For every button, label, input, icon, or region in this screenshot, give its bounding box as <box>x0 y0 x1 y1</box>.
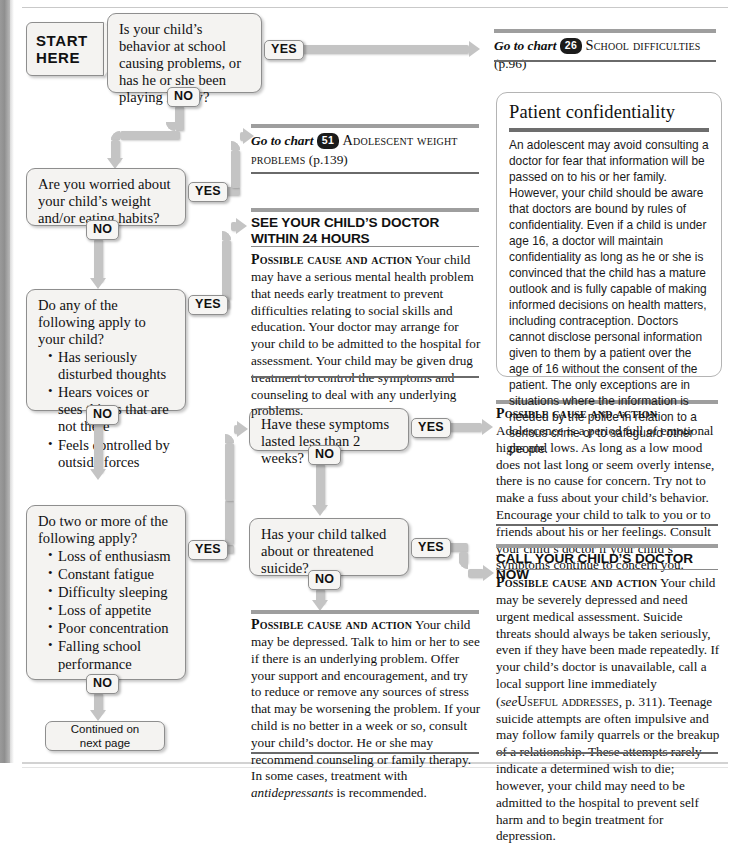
connector-q4-yes-corner2 <box>225 434 234 443</box>
advice-text-part2: , p. 311). Teenage suicide attempts are … <box>496 694 719 844</box>
question-box-school-behavior[interactable]: Is your child’s behavior at school causi… <box>107 13 262 93</box>
connector-q1-no-down <box>175 106 184 131</box>
list-item: Loss of enthusiasm <box>49 548 175 565</box>
connector-q6-yes-right2 <box>468 569 484 578</box>
advice-text-part1: Your child may be depressed. Talk to him… <box>251 617 480 783</box>
connector-q5-no <box>316 464 325 509</box>
start-here-line2: HERE <box>36 49 103 66</box>
arrow-q3-yes <box>236 218 247 234</box>
advice-rule-top-depressed <box>251 610 479 614</box>
panel-body-text: An adolescent may avoid consulting a doc… <box>509 137 711 457</box>
connector-q4-yes-up <box>225 500 234 545</box>
question-box-disturbed-thoughts[interactable]: Do any of the following apply to your ch… <box>26 289 186 411</box>
connector-q2-yes-up <box>231 150 240 188</box>
advice-see-word: see <box>500 694 517 709</box>
arrow-q6-yes <box>483 565 494 581</box>
connector-q1-yes <box>300 45 469 54</box>
go-to-chart-prefix: Go to chart <box>494 38 557 53</box>
no-label-q1[interactable]: NO <box>167 87 200 107</box>
connector-q6-yes-corner2 <box>459 560 468 569</box>
reference-rule-top-weight <box>251 124 479 128</box>
chart-page: (p.96) <box>494 56 526 71</box>
connector-q3-no <box>94 424 103 473</box>
no-label-q5[interactable]: NO <box>308 445 341 465</box>
advice-body-urgent24: Possible cause and action Your child may… <box>251 251 481 420</box>
connector-q3-yes-corner2 <box>222 231 231 240</box>
chart-number-badge: 26 <box>560 38 582 54</box>
list-item: Poor concentration <box>49 620 175 637</box>
yes-label-q3[interactable]: YES <box>188 295 228 315</box>
continued-line2: next page <box>80 737 131 749</box>
advice-rule-top-callnow <box>496 544 718 548</box>
advice-heading-urgent24: SEE YOUR CHILD’S DOCTOR WITHIN 24 HOURS <box>251 215 483 248</box>
panel-title: Patient confidentiality <box>509 102 715 123</box>
arrow-q4-no <box>90 710 106 721</box>
connector-q1-no-left <box>120 131 180 140</box>
no-label-q6[interactable]: NO <box>308 570 341 590</box>
yes-label-q5[interactable]: YES <box>411 418 451 438</box>
start-here-line1: START <box>36 32 103 49</box>
advice-rule-top-urgent24 <box>251 208 479 212</box>
reference-rule-bottom-weight <box>251 172 479 174</box>
reference-school-difficulties[interactable]: Go to chart 26 School difficulties (p.96… <box>494 36 726 73</box>
advice-body-depressed: Possible cause and action Your child may… <box>251 616 481 802</box>
no-label-q4[interactable]: NO <box>86 674 119 694</box>
list-item: Constant fatigue <box>49 566 175 583</box>
page-gutter-bar <box>0 0 10 763</box>
list-item: Loss of appetite <box>49 602 175 619</box>
question-item-list: Loss of enthusiasm Constant fatigue Diff… <box>38 548 175 672</box>
question-lead-text: Do two or more of the following apply? <box>38 513 175 547</box>
question-box-weight-eating[interactable]: Are you worried about your child’s weigh… <box>26 168 186 226</box>
arrow-q3-no <box>90 469 106 480</box>
advice-text-part1: Your child may be severely depressed and… <box>496 575 719 709</box>
connector-q3-yes-up <box>222 240 231 300</box>
connector-q1-no-corner2 <box>111 131 120 140</box>
continued-line1: Continued on <box>71 723 139 735</box>
arrow-q5-no <box>312 505 328 516</box>
advice-rule-mid-callnow <box>496 569 718 570</box>
chart-page: (p.139) <box>309 152 348 167</box>
list-item: Difficulty sleeping <box>49 584 175 601</box>
chart-number-badge: 51 <box>317 133 339 149</box>
list-item: Has seriously disturbed thoughts <box>49 349 175 383</box>
advice-term-antidepressants: antidepressants <box>251 785 333 800</box>
connector-q5-yes <box>446 423 482 432</box>
advice-rule-mid-urgent24 <box>251 246 479 247</box>
continued-next-page-box: Continued on next page <box>45 721 165 751</box>
list-item: Falling school performance <box>49 638 175 672</box>
advice-rule-bottom-callnow <box>496 752 718 754</box>
reference-adolescent-weight[interactable]: Go to chart 51 Adolescent weight problem… <box>251 131 483 169</box>
connector-q2-yes-corner2 <box>231 141 240 150</box>
question-box-suicide-threat[interactable]: Has your child talked about or threatene… <box>249 518 409 576</box>
no-label-q3[interactable]: NO <box>86 405 119 425</box>
chart-title: School difficulties <box>586 37 701 53</box>
connector-q4-yes-up2 <box>225 443 234 501</box>
advice-body-callnow: Possible cause and action Your child may… <box>496 574 720 845</box>
question-box-depression-symptoms[interactable]: Do two or more of the following apply? L… <box>26 505 186 680</box>
arrow-q2-no <box>90 278 106 289</box>
advice-text-part2: is recommended. <box>333 785 426 800</box>
connector-q1-no-corner <box>166 122 175 131</box>
page-top-rule <box>22 7 728 8</box>
advice-text: Your child may have a serious mental hea… <box>251 252 480 418</box>
yes-label-q1[interactable]: YES <box>264 40 304 60</box>
question-lead-text: Do any of the following apply to your ch… <box>38 297 175 348</box>
panel-title-rule <box>509 128 709 132</box>
possible-cause-label: Possible cause and action <box>251 252 412 267</box>
no-label-q2[interactable]: NO <box>86 220 119 240</box>
arrow-q5-yes <box>482 419 493 435</box>
start-here-marker: START HERE <box>26 22 104 76</box>
advice-rule-bottom-depressed <box>251 752 479 754</box>
yes-label-q2[interactable]: YES <box>188 182 228 202</box>
advice-rule-bottom-urgent24 <box>251 376 479 378</box>
yes-label-q4[interactable]: YES <box>188 540 228 560</box>
reference-rule-top-school <box>494 29 716 33</box>
arrow-q4-yes <box>237 421 248 437</box>
arrow-q1-yes <box>469 41 480 57</box>
possible-cause-label: Possible cause and action <box>251 617 412 632</box>
list-item: Feels controlled by outside forces <box>49 437 175 471</box>
yes-label-q6[interactable]: YES <box>411 538 451 558</box>
possible-cause-label: Possible cause and action <box>496 575 657 590</box>
go-to-chart-prefix: Go to chart <box>251 133 314 148</box>
